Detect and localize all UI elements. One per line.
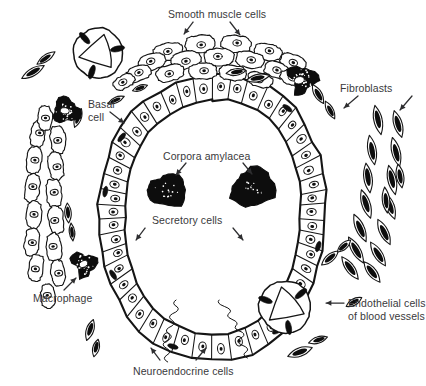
epithelial-cell-nucleus: [217, 83, 224, 91]
muscle-cell-nucleus: [53, 163, 62, 170]
label-fibroblasts: Fibroblasts: [340, 82, 392, 95]
muscle-cell-nucleus: [29, 183, 38, 190]
label-secretory-cells: Secretory cells: [152, 214, 222, 227]
muscle-cell-nucleus: [53, 137, 62, 144]
muscle-cell-nucleus: [197, 41, 206, 48]
muscle-cell-nucleus: [50, 189, 58, 195]
label-endothelial-line2: of blood vessels: [348, 310, 425, 323]
epithelial-cell-nucleus: [217, 343, 224, 354]
muscle-cell-nucleus: [50, 217, 59, 224]
epithelial-cell-nucleus: [109, 208, 118, 215]
label-corpora-amylacea: Corpora amylacea: [163, 150, 250, 163]
muscle-cell-nucleus: [200, 67, 209, 74]
label-macrophage: Macrophage: [33, 292, 92, 305]
smooth-muscle-cell: [188, 62, 217, 80]
label-smooth-muscle-cells: Smooth muscle cells: [168, 8, 266, 21]
muscle-cell-nucleus: [28, 239, 36, 245]
label-basal-cell-line2: cell: [88, 111, 104, 124]
epithelial-cell-nucleus: [307, 208, 316, 215]
muscle-cell-nucleus: [233, 40, 242, 47]
muscle-cell-nucleus: [31, 157, 39, 163]
muscle-cell-nucleus: [54, 270, 63, 277]
epithelial-cell-nucleus: [199, 84, 207, 94]
muscle-cell-nucleus: [214, 53, 223, 59]
label-endothelial-line1: Endothelial cells: [348, 297, 426, 310]
label-basal-cell-line1: Basal: [88, 98, 115, 111]
label-neuroendocrine-cells: Neuroendocrine cells: [133, 365, 234, 378]
muscle-cell-nucleus: [30, 211, 38, 217]
muscle-cell-nucleus: [49, 243, 57, 249]
muscle-cell-nucleus: [41, 115, 49, 121]
muscle-cell-nucleus: [31, 266, 40, 273]
